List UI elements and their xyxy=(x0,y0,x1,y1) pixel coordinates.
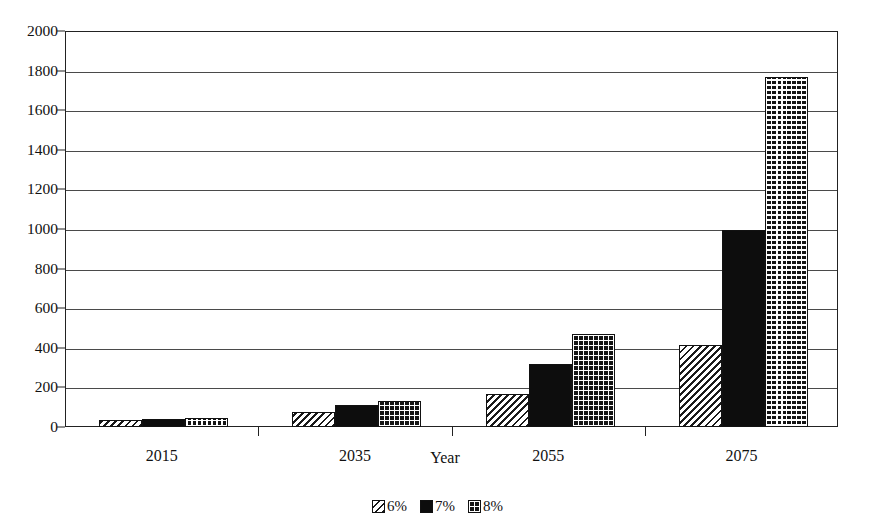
legend-label: 7% xyxy=(435,499,455,514)
x-axis-tick-label: 2075 xyxy=(725,447,757,465)
y-axis-tick-label: 600 xyxy=(0,299,58,317)
legend-item-7pct: 7% xyxy=(420,499,455,514)
legend-swatch-icon xyxy=(372,500,385,513)
y-axis-tick-mark xyxy=(57,149,65,150)
y-axis-tick-label: 1400 xyxy=(0,141,58,159)
legend-swatch-icon xyxy=(420,500,433,513)
x-axis-tick-mark xyxy=(258,427,259,436)
y-axis-tick-mark xyxy=(57,308,65,309)
x-axis-tick-mark xyxy=(645,427,646,436)
bar-chart: 0200400600800100012001400160018002000 20… xyxy=(0,0,875,528)
x-axis-tick-mark xyxy=(452,427,453,436)
y-axis-tick-mark xyxy=(57,31,65,32)
y-axis-tick-label: 200 xyxy=(0,378,58,396)
y-axis-tick-label: 800 xyxy=(0,260,58,278)
y-axis-tick-mark xyxy=(57,427,65,428)
bar-2055-7pct xyxy=(529,364,572,427)
x-axis-tick-label: 2035 xyxy=(339,447,371,465)
x-axis-tick-label: 2055 xyxy=(532,447,564,465)
bar-2055-8pct xyxy=(572,334,615,427)
y-axis-tick-mark xyxy=(57,268,65,269)
y-axis-tick-label: 0 xyxy=(0,418,58,436)
bar-2075-7pct xyxy=(722,230,765,427)
chart-legend: 6%7%8% xyxy=(0,499,875,514)
x-axis-title: Year xyxy=(430,449,459,467)
y-axis-tick-mark xyxy=(57,347,65,348)
legend-label: 6% xyxy=(387,499,407,514)
y-axis-tick-label: 1600 xyxy=(0,101,58,119)
y-axis-tick-label: 400 xyxy=(0,339,58,357)
legend-item-6pct: 6% xyxy=(372,499,407,514)
y-axis-tick-mark xyxy=(57,110,65,111)
legend-label: 8% xyxy=(483,499,503,514)
y-axis-tick-mark xyxy=(57,387,65,388)
bar-2075-8pct xyxy=(765,77,808,427)
bar-2075-6pct xyxy=(679,345,722,427)
y-axis-tick-label: 1000 xyxy=(0,220,58,238)
y-axis-tick-mark xyxy=(57,70,65,71)
bar-group xyxy=(258,31,451,427)
y-axis-tick-label: 1200 xyxy=(0,180,58,198)
bar-2035-6pct xyxy=(292,412,335,427)
x-axis-tick-label: 2015 xyxy=(146,447,178,465)
y-axis-tick-mark xyxy=(57,229,65,230)
legend-swatch-icon xyxy=(468,500,481,513)
bar-2015-7pct xyxy=(142,419,185,427)
bar-group xyxy=(645,31,838,427)
bar-2035-7pct xyxy=(335,405,378,427)
bar-2015-6pct xyxy=(99,420,142,427)
legend-item-8pct: 8% xyxy=(468,499,503,514)
bar-group xyxy=(65,31,258,427)
y-axis-tick-label: 2000 xyxy=(0,22,58,40)
y-axis-tick-mark xyxy=(57,189,65,190)
bar-2055-6pct xyxy=(486,394,529,427)
bar-2035-8pct xyxy=(378,401,421,427)
bar-2015-8pct xyxy=(185,418,228,427)
y-axis-tick-label: 1800 xyxy=(0,62,58,80)
bar-group xyxy=(452,31,645,427)
bars-layer xyxy=(65,31,838,427)
